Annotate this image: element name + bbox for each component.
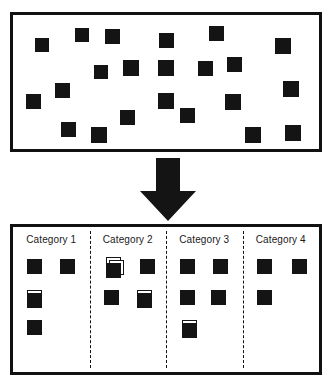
stack-front-square: [182, 323, 197, 338]
category-1-item-stack-2: [27, 290, 45, 308]
unsorted-item-0: [35, 38, 49, 52]
unsorted-item-8: [123, 60, 139, 76]
category-label-4: Category 4: [243, 234, 320, 246]
category-column-1: Category 1: [13, 227, 90, 372]
category-3-item-0: [180, 259, 195, 274]
category-1-item-1: [60, 259, 75, 274]
category-3-item-stack-4: [182, 320, 200, 338]
stack-front-square: [106, 263, 121, 278]
category-column-2: Category 2: [90, 227, 167, 372]
category-label-1: Category 1: [13, 234, 90, 246]
category-divider-1: [90, 231, 91, 368]
categorized-items-box: Category 1Category 2Category 3Category 4: [10, 224, 322, 375]
unsorted-item-12: [55, 83, 70, 98]
unsorted-item-11: [283, 81, 299, 97]
unsorted-item-13: [26, 94, 41, 109]
category-label-2: Category 2: [90, 234, 167, 246]
category-1-item-0: [27, 259, 42, 274]
category-label-3: Category 3: [166, 234, 243, 246]
category-divider-3: [243, 231, 244, 368]
category-4-item-1: [292, 259, 307, 274]
category-column-4: Category 4: [243, 227, 320, 372]
unsorted-item-3: [159, 33, 174, 48]
category-2-item-stack-0: [106, 257, 127, 278]
unsorted-item-16: [120, 110, 135, 125]
category-1-item-3: [27, 320, 42, 335]
category-4-item-2: [257, 290, 272, 305]
category-4-item-0: [257, 259, 272, 274]
down-arrow-icon: [139, 158, 197, 222]
unsorted-item-17: [180, 108, 195, 123]
category-2-item-2: [104, 290, 119, 305]
unsorted-items-box: [10, 12, 322, 152]
diagram-canvas: Category 1Category 2Category 3Category 4: [0, 0, 334, 387]
unsorted-item-20: [245, 127, 261, 143]
unsorted-item-7: [94, 65, 108, 79]
stack-front-square: [137, 293, 152, 308]
category-3-item-2: [180, 290, 195, 305]
unsorted-item-6: [227, 57, 242, 72]
category-3-item-1: [213, 259, 228, 274]
unsorted-item-21: [285, 125, 301, 141]
unsorted-item-2: [105, 29, 120, 44]
unsorted-item-5: [275, 38, 291, 54]
category-2-item-1: [140, 259, 155, 274]
unsorted-item-4: [209, 26, 224, 41]
category-divider-2: [166, 231, 167, 368]
unsorted-item-1: [75, 28, 89, 42]
category-3-item-3: [211, 290, 226, 305]
unsorted-item-10: [198, 61, 213, 76]
unsorted-item-18: [61, 122, 76, 137]
unsorted-item-19: [91, 127, 107, 143]
category-column-3: Category 3: [166, 227, 243, 372]
unsorted-item-15: [225, 94, 241, 110]
stack-front-square: [27, 293, 42, 308]
category-2-item-stack-3: [137, 290, 155, 308]
unsorted-item-9: [158, 60, 174, 76]
unsorted-item-14: [158, 93, 174, 109]
